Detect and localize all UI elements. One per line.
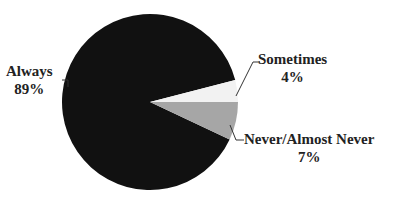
always-label: Always 89% bbox=[6, 62, 53, 98]
always-label-name: Always bbox=[6, 62, 53, 80]
sometimes-leader-line bbox=[236, 62, 260, 96]
always-label-pct: 89% bbox=[6, 80, 53, 98]
pie-chart bbox=[0, 0, 395, 202]
never-label: Never/Almost Never 7% bbox=[244, 130, 374, 166]
never-label-name: Never/Almost Never bbox=[244, 130, 374, 148]
pie-slices bbox=[62, 14, 238, 190]
sometimes-label-name: Sometimes bbox=[258, 50, 327, 68]
sometimes-label: Sometimes 4% bbox=[258, 50, 327, 86]
never-label-pct: 7% bbox=[244, 148, 374, 166]
sometimes-label-pct: 4% bbox=[258, 68, 327, 86]
